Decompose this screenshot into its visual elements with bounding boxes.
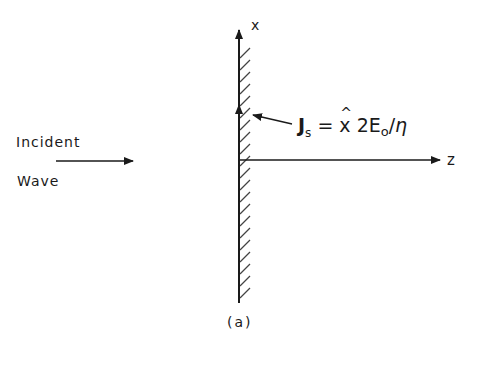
eq-x-hat: ^x bbox=[339, 114, 350, 136]
eq-eta: η bbox=[395, 114, 407, 136]
incident-label: Incident bbox=[16, 134, 80, 150]
equation-leader-arrow bbox=[253, 115, 292, 124]
z-axis-label: z bbox=[447, 151, 455, 169]
conductor-hatching bbox=[240, 48, 250, 298]
eq-equals: = bbox=[311, 114, 339, 136]
eq-E-subscript: o bbox=[381, 124, 389, 139]
surface-current-equation: Js = ^x 2Eo/η bbox=[298, 114, 407, 140]
diagram-canvas bbox=[0, 0, 485, 365]
eq-coef: 2E bbox=[351, 114, 381, 136]
x-axis-label: x bbox=[251, 17, 259, 33]
figure-caption: (a) bbox=[227, 314, 253, 330]
eq-hat: ^ bbox=[340, 105, 352, 121]
wave-label: Wave bbox=[17, 173, 59, 189]
